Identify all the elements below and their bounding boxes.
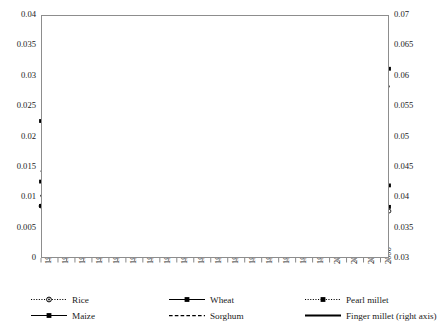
legend-row: MaizeSorghumFinger millet (right axis) bbox=[30, 308, 424, 323]
legend-item-maize[interactable]: Maize bbox=[30, 308, 168, 323]
legend-label: Maize bbox=[72, 311, 95, 321]
legend-label: Pearl millet bbox=[346, 295, 389, 305]
legend-item-finger-millet-right-axis[interactable]: Finger millet (right axis) bbox=[304, 308, 424, 323]
legend-label: Sorghum bbox=[210, 311, 244, 321]
legend-item-sorghum[interactable]: Sorghum bbox=[168, 308, 304, 323]
legend-swatch-solid-square bbox=[30, 310, 68, 321]
x-tick-marks bbox=[41, 258, 389, 263]
legend-swatch-solid-thick bbox=[304, 310, 342, 321]
legend-row: RiceWheatPearl millet bbox=[30, 292, 424, 307]
plot-area bbox=[41, 15, 389, 258]
legend-swatch-dotted-square bbox=[304, 294, 342, 305]
legend-label: Rice bbox=[72, 295, 89, 305]
legend-item-wheat[interactable]: Wheat bbox=[168, 292, 304, 307]
chart-legend: RiceWheatPearl milletMaizeSorghumFinger … bbox=[30, 292, 424, 328]
legend-item-pearl-millet[interactable]: Pearl millet bbox=[304, 292, 424, 307]
legend-swatch-dotted-circle bbox=[30, 294, 68, 305]
legend-swatch-solid-square bbox=[168, 294, 206, 305]
legend-swatch-dashed bbox=[168, 310, 206, 321]
legend-label: Wheat bbox=[210, 295, 234, 305]
legend-label: Finger millet (right axis) bbox=[346, 311, 437, 321]
legend-item-rice[interactable]: Rice bbox=[30, 292, 168, 307]
plot-frame-border bbox=[41, 15, 389, 258]
